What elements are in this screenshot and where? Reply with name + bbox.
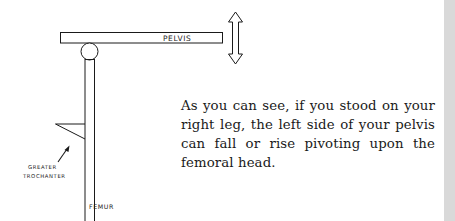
document-page: PELVIS GREATER TROCHANTER FEMUR As you c… [0, 0, 444, 221]
femur-label: FEMUR [89, 203, 114, 210]
body-paragraph: As you can see, if you stood on your rig… [181, 96, 435, 172]
greater-label: GREATER [28, 164, 57, 170]
greater-trochanter [56, 124, 86, 139]
pelvis-bar [61, 33, 223, 44]
vertical-double-arrow-icon [229, 12, 243, 64]
femoral-head [81, 43, 98, 60]
trochanter-label: TROCHANTER [22, 173, 66, 179]
trochanter-pointer-line [58, 149, 67, 162]
pelvis-label: PELVIS [163, 34, 191, 43]
page-gutter [444, 0, 455, 221]
